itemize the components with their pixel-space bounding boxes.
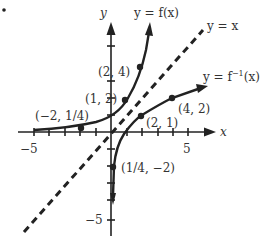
x-axis-label: x [220,125,227,139]
finv-arrow-icon [196,84,208,93]
label-m2-quarter: (−2, 1/4) [35,109,89,123]
x-tick-label-neg5: −5 [20,142,38,156]
f-arrow-icon [145,22,153,36]
label-4-2: (4, 2) [178,102,210,116]
point-4-2 [169,95,175,101]
label-1-2: (1, 2) [85,92,117,106]
point-quarter-m2 [110,164,116,170]
y-tick-label-neg5: −5 [85,213,103,227]
label-quarter-m2: (1/4, −2) [121,161,175,175]
bullet-dot [2,8,6,12]
label-2-1: (2, 1) [146,116,178,130]
point-2-1 [138,113,144,119]
point-m2-quarter [78,125,84,131]
point-1-2 [122,97,128,103]
x-axis-arrow-icon [204,128,216,137]
f-label: y = f(x) [133,6,179,20]
identity-label: y = x [206,19,238,33]
point-2-4 [137,64,143,70]
finv-label: y = f−1(x) [202,69,260,84]
inverse-function-graph: y x y = f(x) y = x y = f−1(x) (2, 4) (1,… [0,0,266,250]
label-2-4: (2, 4) [98,65,130,79]
y-axis-arrow-icon [107,22,116,35]
y-axis [107,32,115,236]
y-axis-label: y [99,6,107,20]
x-tick-label-5: 5 [183,142,191,156]
